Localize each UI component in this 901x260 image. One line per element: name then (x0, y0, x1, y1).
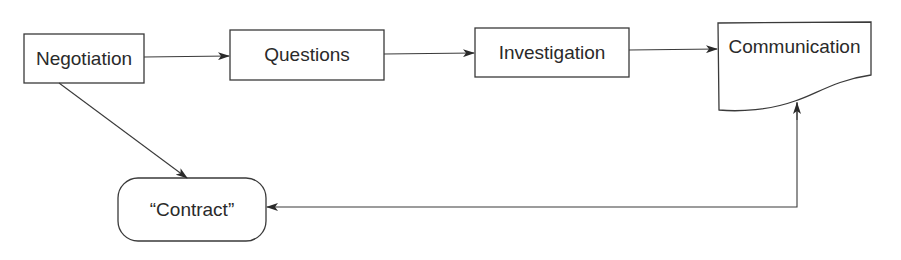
edge-negotiation-questions (144, 56, 229, 57)
edge-negotiation-contract (59, 83, 187, 178)
edge-communication-contract (267, 102, 797, 207)
negotiation-label: Negotiation (24, 34, 144, 83)
investigation-label: Investigation (475, 28, 629, 77)
contract-label: “Contract” (118, 178, 266, 241)
questions-label: Questions (230, 30, 384, 80)
communication-label: Communication (718, 30, 871, 64)
edge-investigation-communication (629, 49, 717, 50)
edge-questions-investigation (384, 53, 474, 54)
